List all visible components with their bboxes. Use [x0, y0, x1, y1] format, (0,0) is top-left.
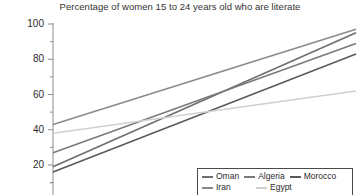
legend-item-iran[interactable]: Iran	[202, 183, 251, 192]
legend-swatch-oman	[202, 176, 213, 178]
legend-swatch-morocco	[290, 176, 301, 178]
legend-item-egypt[interactable]: Egypt	[256, 183, 292, 192]
series-line-iran	[53, 29, 356, 124]
legend-label-algeria: Algeria	[258, 172, 284, 181]
data-series-group	[53, 29, 356, 172]
legend-label-egypt: Egypt	[270, 183, 292, 192]
legend-label-morocco: Morocco	[304, 172, 337, 181]
legend-row-1: OmanAlgeriaMorocco	[202, 171, 348, 182]
chart-container: Percentage of women 15 to 24 years old w…	[0, 0, 360, 195]
plot-area	[0, 0, 360, 195]
legend-swatch-egypt	[256, 187, 267, 189]
legend-item-oman[interactable]: Oman	[202, 172, 239, 181]
legend-swatch-algeria	[244, 176, 255, 178]
chart-legend: OmanAlgeriaMoroccoIranEgypt	[197, 168, 353, 195]
legend-item-morocco[interactable]: Morocco	[290, 172, 337, 181]
series-line-morocco	[53, 54, 356, 172]
legend-row-2: IranEgypt	[202, 182, 348, 193]
legend-label-oman: Oman	[216, 172, 239, 181]
y-axis	[48, 23, 53, 195]
series-line-oman	[53, 33, 356, 167]
legend-swatch-iran	[202, 187, 213, 189]
legend-item-algeria[interactable]: Algeria	[244, 172, 284, 181]
legend-label-iran: Iran	[216, 183, 231, 192]
